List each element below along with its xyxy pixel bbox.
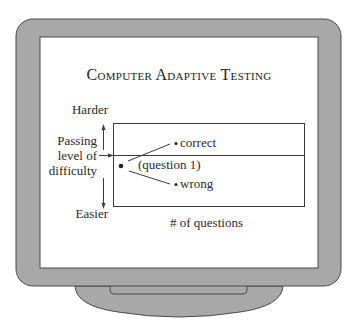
- easier-label: Easier: [50, 206, 108, 221]
- wrong-label: wrong: [180, 176, 213, 192]
- passing-level-label: Passing level of difficulty: [40, 133, 97, 178]
- question-1-label: (question 1): [138, 157, 200, 173]
- diagram-title: Computer Adaptive Testing: [40, 66, 318, 84]
- wrong-point-dot: [175, 183, 178, 186]
- correct-point-dot: [175, 142, 178, 145]
- start-point-dot: [119, 164, 124, 169]
- x-axis-label: # of questions: [170, 215, 243, 230]
- correct-label: correct: [180, 135, 216, 151]
- passing-level-label-line-1: Passing: [40, 133, 97, 148]
- harder-label: Harder: [50, 102, 108, 117]
- passing-level-label-line-2: level of: [40, 148, 97, 163]
- passing-level-label-line-3: difficulty: [40, 163, 97, 178]
